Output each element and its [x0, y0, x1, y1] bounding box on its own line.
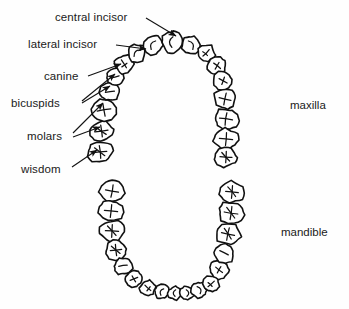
tooth-mandible-15-molar [219, 202, 244, 223]
tooth-mandible-0-wisdom [98, 180, 125, 202]
tooth-maxilla-9-lateral-incisor [181, 36, 200, 54]
mandible-arch [98, 180, 245, 300]
label-canine: canine [44, 70, 79, 82]
tooth-maxilla-14-molar [216, 109, 240, 129]
tooth-maxilla-13-molar [214, 90, 235, 110]
tooth-maxilla-16-wisdom [214, 147, 237, 168]
tooth-mandible-1-molar [98, 201, 124, 221]
tooth-mandible-3-molar [106, 240, 126, 261]
tooth-maxilla-1-molar [90, 120, 114, 141]
maxilla-arch [87, 31, 239, 168]
label-lateral-incisor: lateral incisor [28, 38, 97, 50]
tooth-mandible-2-molar [99, 221, 124, 243]
dental-diagram-page: central incisor lateral incisor canine b… [0, 0, 349, 309]
tooth-mandible-14-molar [217, 224, 242, 244]
label-molars: molars [27, 130, 62, 142]
label-bicuspids: bicuspids [11, 97, 60, 109]
tooth-maxilla-2-molar [91, 99, 116, 122]
label-mandible: mandible [281, 226, 328, 238]
label-wisdom: wisdom [21, 163, 61, 175]
leader-line-0 [146, 18, 176, 36]
label-central-incisor: central incisor [55, 11, 127, 23]
tooth-mandible-16-molar [219, 180, 244, 203]
tooth-maxilla-0-molar [87, 142, 113, 161]
tooth-maxilla-12-bicuspid [214, 71, 232, 91]
tooth-maxilla-7-central-incisor [143, 36, 163, 56]
tooth-mandible-12-bicuspid [210, 261, 230, 280]
label-maxilla: maxilla [290, 99, 326, 111]
